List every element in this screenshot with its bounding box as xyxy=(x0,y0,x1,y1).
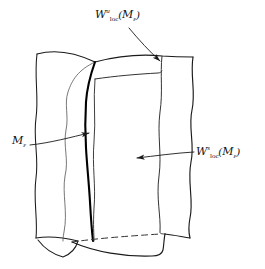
arrow-to-slow-manifold xyxy=(30,133,89,145)
label-unstable-manifold-m: M xyxy=(122,8,133,21)
label-unstable-close-paren: ) xyxy=(136,8,140,20)
left-sheet-left-edge xyxy=(35,54,37,238)
label-stable-close-paren: ) xyxy=(236,145,240,157)
label-stable-superscript: s xyxy=(207,144,210,152)
label-slow-manifold-subscript: ε xyxy=(23,141,26,149)
label-stable-subscript: loc xyxy=(210,152,219,160)
figure-canvas xyxy=(0,0,265,269)
right-sheet-right-edge xyxy=(189,57,194,238)
right-sheet-upper-ledge xyxy=(95,71,162,79)
right-sheet-bottom-edge xyxy=(165,234,190,238)
label-stable-manifold: Wsloc(Mε) xyxy=(196,145,240,160)
right-sheet-front-bottom-edge xyxy=(72,234,165,256)
bottom-hidden-intersection-dashed xyxy=(72,234,160,242)
label-stable-w: W xyxy=(196,145,207,158)
label-slow-manifold: Mε xyxy=(12,135,26,149)
right-sheet-interior-fold xyxy=(158,56,165,234)
label-unstable-manifold: Wuloc(Mε) xyxy=(95,8,140,23)
arrow-to-stable-sheet xyxy=(137,152,194,158)
left-sheet-bottom-edge xyxy=(36,237,78,241)
manifold-figure: Wuloc(Mε) Wsloc(Mε) Mε xyxy=(0,0,265,269)
right-sheet-left-edge xyxy=(93,79,95,241)
label-unstable-superscript: u xyxy=(106,7,110,15)
label-stable-manifold-m: M xyxy=(222,145,233,158)
label-slow-manifold-m: M xyxy=(12,134,23,147)
right-sheet-top-edge xyxy=(95,55,193,62)
label-unstable-w: W xyxy=(95,8,106,21)
left-sheet-top-edge xyxy=(37,52,95,62)
